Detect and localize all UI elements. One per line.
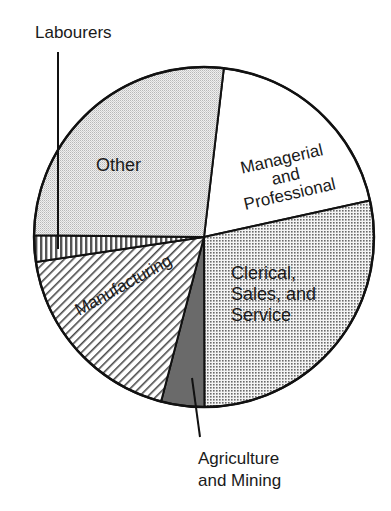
label-other: Other xyxy=(96,155,141,175)
pie-slice-other xyxy=(34,67,224,237)
label-agriculture-line2: and Mining xyxy=(198,471,281,490)
label-labourers: Labourers xyxy=(35,23,112,42)
label-agriculture-group: Agriculture and Mining xyxy=(198,449,281,490)
pie-chart: Labourers Other Managerial and Professio… xyxy=(0,0,391,511)
label-agriculture-line1: Agriculture xyxy=(198,449,279,468)
pie-chart-svg: Labourers Other Managerial and Professio… xyxy=(0,0,391,511)
pie-slices xyxy=(34,67,374,407)
label-clerical-line3: Service xyxy=(231,305,291,325)
label-clerical-line1: Clerical, xyxy=(231,263,296,283)
label-clerical-line2: Sales, and xyxy=(231,284,316,304)
